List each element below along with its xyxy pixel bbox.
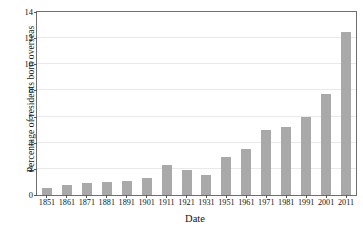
bar [162,165,172,195]
bar-group: 1901 [137,12,157,195]
bar-chart: Percentage of residents born overseas 02… [0,0,363,234]
bar-series: 1851186118711881189119011911192119311951… [37,12,356,195]
x-axis-tick-label: 2001 [318,199,334,207]
bar [261,130,271,195]
bar-group: 1871 [77,12,97,195]
x-axis-tick-label: 1971 [258,199,274,207]
bar-group: 1991 [296,12,316,195]
x-axis-tick-label: 1981 [278,199,294,207]
plot-area: 02468101214 1851186118711881189119011911… [36,11,357,196]
y-axis-tick-label: 8 [29,86,33,95]
bar-group: 1861 [57,12,77,195]
bar-group: 1961 [236,12,256,195]
bar-group: 1981 [276,12,296,195]
bar-group: 1891 [117,12,137,195]
y-axis-tick-label: 4 [29,138,33,147]
bar [102,182,112,195]
x-axis-tick-label: 1901 [138,199,154,207]
bar-group: 2001 [316,12,336,195]
bar [341,32,351,195]
y-axis-tick-label: 12 [25,34,34,43]
bar-group: 1951 [216,12,236,195]
y-axis-tick-label: 6 [29,112,33,121]
x-axis-tick-label: 1871 [79,199,95,207]
y-axis-tick-label: 0 [29,191,33,200]
bar-group: 1911 [157,12,177,195]
bar [281,127,291,195]
x-axis-tick-label: 1951 [218,199,234,207]
bar [122,181,132,195]
bar [321,94,331,195]
y-axis-tick-label: 14 [25,8,34,17]
y-axis-tick-mark [34,195,37,196]
bar [62,185,72,195]
bar [221,157,231,195]
x-axis-tick-label: 2011 [338,199,354,207]
x-axis-tick-label: 1881 [99,199,115,207]
bar-group: 1931 [197,12,217,195]
x-axis-tick-label: 1921 [178,199,194,207]
x-axis-tick-label: 1861 [59,199,75,207]
bar [241,149,251,195]
bar [142,178,152,195]
x-axis-tick-label: 1961 [238,199,254,207]
bar [201,175,211,195]
x-axis-title: Date [34,213,356,224]
bar [301,117,311,195]
x-axis-tick-label: 1891 [119,199,135,207]
y-axis-tick-label: 2 [29,165,33,174]
x-axis-tick-label: 1991 [298,199,314,207]
bar-group: 2011 [336,12,356,195]
bar-group: 1881 [97,12,117,195]
y-axis-tick-label: 10 [25,60,34,69]
x-axis-tick-label: 1851 [39,199,55,207]
bar-group: 1851 [37,12,57,195]
bar-group: 1971 [256,12,276,195]
x-axis-tick-label: 1911 [159,199,175,207]
bar-group: 1921 [177,12,197,195]
bar [182,170,192,195]
bar [82,183,92,195]
x-axis-tick-label: 1931 [198,199,214,207]
